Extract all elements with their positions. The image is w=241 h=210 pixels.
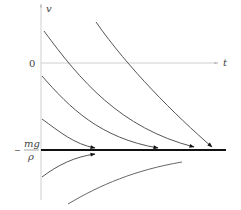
solution-curve-6 <box>68 162 182 204</box>
solution-curves-diagram: v t 0 − mg ρ <box>0 0 241 210</box>
solution-curve-5 <box>42 154 95 177</box>
origin-label: 0 <box>29 58 35 69</box>
equilibrium-numerator: mg <box>24 138 40 149</box>
solution-curve-1 <box>96 22 212 147</box>
t-axis-label: t <box>223 57 228 68</box>
equilibrium-sign: − <box>14 146 21 155</box>
solution-curve-2 <box>44 31 194 147</box>
v-axis-label: v <box>46 3 52 14</box>
solution-curve-4 <box>42 119 95 148</box>
solution-curve-3 <box>42 76 158 148</box>
equilibrium-denominator: ρ <box>27 151 34 162</box>
